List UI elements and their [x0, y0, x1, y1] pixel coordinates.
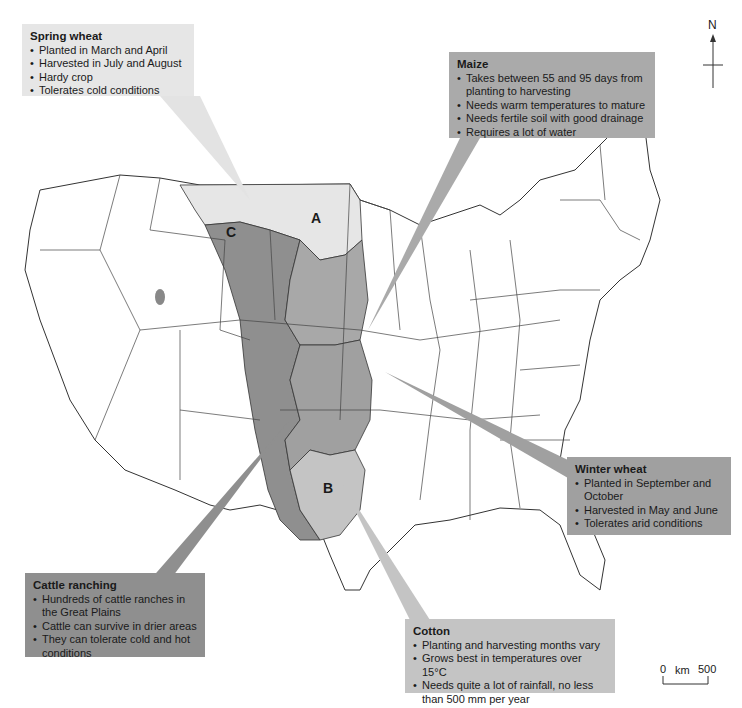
- scale-unit: km: [675, 664, 690, 676]
- north-label: N: [708, 18, 717, 32]
- box-item: Requires a lot of water: [457, 126, 647, 140]
- box-item: Hundreds of cattle ranches in the Great …: [33, 593, 197, 620]
- maize-box: Maize Takes between 55 and 95 days from …: [449, 52, 655, 138]
- scale-bar: [663, 676, 708, 684]
- box-item: Harvested in July and August: [30, 57, 186, 71]
- box-item: Needs quite a lot of rainfall, no less t…: [413, 679, 607, 706]
- box-item: Tolerates arid conditions: [575, 517, 723, 531]
- box-item: They can tolerate cold and hot condition…: [33, 633, 197, 660]
- box-item: Needs warm temperatures to mature: [457, 99, 647, 113]
- region-label-a: A: [311, 210, 321, 226]
- winter-wheat-box: Winter wheat Planted in September and Oc…: [567, 457, 731, 535]
- cotton-box: Cotton Planting and harvesting months va…: [405, 619, 615, 693]
- box-item: Takes between 55 and 95 days from planti…: [457, 72, 647, 99]
- region-label-c: C: [226, 224, 236, 240]
- box-title: Spring wheat: [30, 30, 186, 44]
- box-item: Tolerates cold conditions: [30, 84, 186, 98]
- box-title: Winter wheat: [575, 463, 723, 477]
- box-item: Planting and harvesting months vary: [413, 639, 607, 653]
- compass: [703, 34, 723, 88]
- scale-end: 500: [698, 663, 716, 675]
- spring-wheat-box: Spring wheat Planted in March and April …: [22, 24, 194, 96]
- box-item: Hardy crop: [30, 71, 186, 85]
- region-label-b: B: [323, 480, 333, 496]
- box-item: Grows best in temperatures over 15°C: [413, 652, 607, 679]
- box-title: Cotton: [413, 625, 607, 639]
- box-item: Needs fertile soil with good drainage: [457, 112, 647, 126]
- box-item: Cattle can survive in drier areas: [33, 620, 197, 634]
- box-title: Cattle ranching: [33, 579, 197, 593]
- cattle-ranching-box: Cattle ranching Hundreds of cattle ranch…: [25, 573, 205, 657]
- box-item: Planted in March and April: [30, 44, 186, 58]
- box-item: Harvested in May and June: [575, 504, 723, 518]
- scale-start: 0: [660, 663, 666, 675]
- box-title: Maize: [457, 58, 647, 72]
- great-salt-lake: [155, 289, 165, 305]
- box-item: Planted in September and October: [575, 477, 723, 504]
